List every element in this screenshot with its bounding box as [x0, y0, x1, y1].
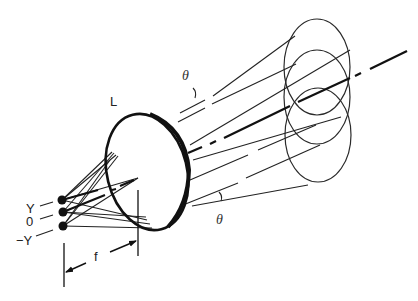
focal-length-label: f — [94, 249, 98, 264]
lens-label: L — [110, 94, 117, 109]
source-point-center — [59, 208, 68, 217]
beam-ellipse-middle — [284, 50, 350, 144]
output-rays — [178, 36, 350, 206]
theta-arc-top — [193, 88, 196, 98]
source-points — [58, 196, 68, 231]
label-point-neg-y: −Y — [16, 233, 33, 248]
source-point-bottom — [59, 222, 68, 231]
beam-ellipse-bottom — [285, 88, 351, 182]
optics-diagram: f Y 0 −Y L θ θ — [0, 0, 418, 301]
label-point-zero: 0 — [26, 214, 33, 229]
source-point-top — [58, 196, 67, 205]
theta-label-bottom: θ — [216, 212, 223, 227]
optical-axis — [188, 51, 407, 153]
theta-arc-bottom — [219, 192, 222, 201]
f-arrow-left — [66, 263, 86, 272]
beam-cross-sections — [284, 19, 351, 182]
angle-markers — [193, 88, 222, 201]
f-arrow-right — [110, 241, 136, 252]
point-label-leaders — [36, 202, 53, 236]
theta-label-top: θ — [182, 68, 189, 83]
focal-length-dimension: f — [66, 241, 136, 272]
